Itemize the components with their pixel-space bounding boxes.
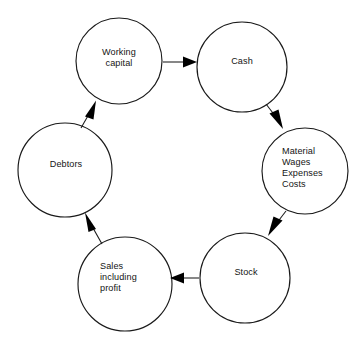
node-label-working-capital: Working capital [92, 47, 146, 69]
arrow-material-to-stock [268, 211, 286, 236]
node-label-stock: Stock [222, 267, 270, 278]
node-circle-stock[interactable] [200, 233, 290, 323]
working-capital-cycle-diagram: Working capital Cash Material Wages Expe… [0, 0, 361, 341]
node-label-sales-including-profit: Sales including profit [100, 261, 158, 294]
node-circle-cash[interactable] [197, 22, 287, 112]
arrow-cash-to-material [266, 104, 283, 129]
node-label-material-wages-expenses-costs: Material Wages Expenses Costs [282, 146, 340, 190]
node-label-debtors: Debtors [40, 159, 92, 170]
node-circle-debtors[interactable] [18, 123, 112, 217]
node-label-cash: Cash [218, 56, 266, 67]
arrow-sales-to-debtors [85, 213, 102, 245]
arrow-debtors-to-working-capital [81, 101, 96, 129]
arrow-stock-to-sales [170, 273, 199, 284]
arrow-working-capital-to-cash [163, 57, 197, 68]
